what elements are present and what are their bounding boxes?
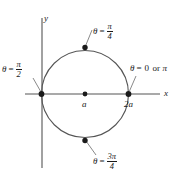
fraction-three-pi-over-4: 3π 4 (107, 152, 118, 171)
theta-symbol-pi-over-2: θ (2, 65, 6, 74)
angle-label-three-pi-over-4: θ = 3π 4 (93, 152, 117, 171)
theta-symbol-pi-over-4: θ (93, 27, 97, 36)
angle-label-pi-over-2: θ = π 2 (2, 60, 22, 79)
equals-sign-zero-or-pi: = (136, 64, 142, 73)
polar-circle-figure: θ = π 4 θ = π 2 θ = 0 or π (0, 0, 190, 177)
point-pi-over-4-dot (82, 45, 87, 50)
fraction-numerator-pi-over-2: π (16, 60, 22, 69)
fraction-pi-over-4: π 4 (107, 22, 113, 41)
equals-sign-three-pi-over-4: = (99, 157, 105, 166)
conjunction-or: or (152, 64, 162, 73)
equals-sign-pi-over-2: = (8, 65, 14, 74)
fraction-pi-over-2: π 2 (16, 60, 22, 79)
fraction-denominator-pi-over-2: 2 (16, 69, 22, 79)
point-three-pi-over-4-dot (82, 138, 87, 143)
point-label-center-a: a (82, 99, 87, 109)
value-pi: π (163, 64, 168, 73)
leader-line-pi-over-2 (33, 78, 41, 92)
point-center-dot (83, 92, 88, 97)
fraction-denominator-pi-over-4: 4 (107, 31, 113, 41)
theta-symbol-three-pi-over-4: θ (93, 157, 97, 166)
value-zero: 0 (144, 64, 151, 73)
fraction-numerator-three-pi-over-4: 3π (107, 152, 118, 161)
x-axis-label: x (164, 88, 168, 98)
angle-label-pi-over-4: θ = π 4 (93, 22, 113, 41)
point-2a-dot (126, 91, 132, 97)
equals-sign-pi-over-4: = (99, 27, 105, 36)
theta-symbol-zero-or-pi: θ (130, 64, 134, 73)
point-origin-dot (39, 91, 45, 97)
point-label-2a: 2a (124, 99, 133, 109)
leader-line-pi-over-4 (86, 30, 93, 46)
leader-line-zero-or-pi (130, 76, 137, 91)
fraction-numerator-pi-over-4: π (107, 22, 113, 31)
fraction-denominator-three-pi-over-4: 4 (107, 161, 118, 171)
angle-label-zero-or-pi: θ = 0 or π (130, 64, 167, 73)
y-axis-label: y (44, 13, 48, 23)
